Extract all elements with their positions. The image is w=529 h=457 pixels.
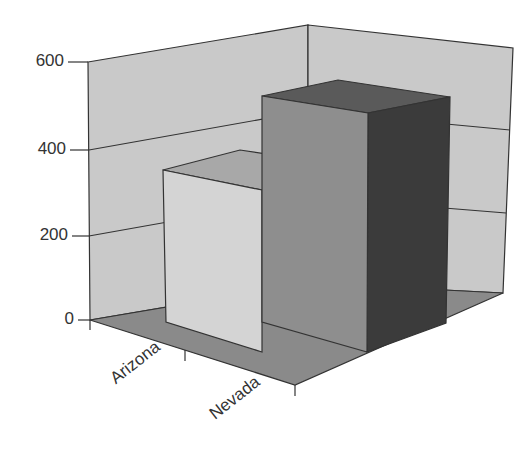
plot-area	[0, 0, 529, 457]
y-tick-label-0: 0	[14, 309, 74, 329]
y-tick-label-600: 600	[4, 51, 64, 71]
y-tick-marks	[68, 62, 90, 320]
bar-arizona-front	[163, 170, 262, 352]
chart-3d-bar: 600 400 200 0 Arizona Nevada	[0, 0, 529, 457]
y-tick-label-400: 400	[6, 139, 66, 159]
bar-nevada-front	[262, 96, 368, 352]
bar-nevada-side	[367, 97, 450, 352]
y-tick-label-200: 200	[8, 225, 68, 245]
bar-nevada[interactable]	[262, 80, 450, 352]
